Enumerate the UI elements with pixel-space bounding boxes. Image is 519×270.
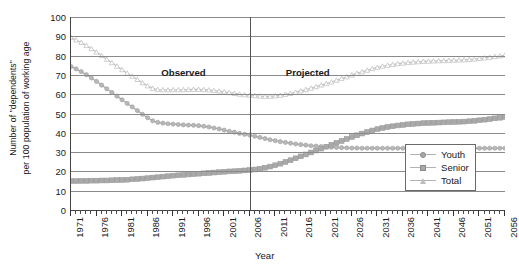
- x-tick-major: [96, 210, 97, 216]
- x-tick-minor: [208, 210, 209, 214]
- y-axis-title: Number of "dependents" per 100 populatio…: [0, 0, 34, 215]
- x-tick-minor: [397, 210, 398, 214]
- y-tick-label: 0: [61, 206, 66, 215]
- x-tick-minor: [213, 210, 214, 214]
- x-tick-minor: [320, 210, 321, 214]
- x-tick-minor: [484, 210, 485, 214]
- x-tick-label: 1976: [100, 217, 110, 238]
- x-tick-minor: [443, 210, 444, 214]
- legend-item-total[interactable]: Total: [410, 174, 469, 187]
- x-tick-minor: [407, 210, 408, 214]
- x-tick-minor: [136, 210, 137, 214]
- x-tick-minor: [489, 210, 490, 214]
- x-tick-label: 2046: [457, 217, 467, 238]
- projected-label: Projected: [286, 67, 330, 78]
- x-tick-label: 2031: [381, 217, 391, 238]
- x-tick-minor: [433, 210, 434, 214]
- x-tick-minor: [193, 210, 194, 214]
- x-tick-minor: [177, 210, 178, 214]
- x-tick-label: 2001: [228, 217, 238, 238]
- x-tick-minor: [187, 210, 188, 214]
- x-tick-label: 2026: [355, 217, 365, 238]
- x-tick-minor: [233, 210, 234, 214]
- legend-item-senior[interactable]: Senior: [410, 161, 469, 174]
- x-tick-major: [121, 210, 122, 216]
- x-tick-major: [427, 210, 428, 216]
- x-tick-minor: [290, 210, 291, 214]
- x-tick-major: [249, 210, 250, 216]
- filled-square-icon: [410, 162, 436, 173]
- x-tick-minor: [371, 210, 372, 214]
- x-tick-major: [351, 210, 352, 216]
- x-tick-minor: [417, 210, 418, 214]
- x-tick-minor: [75, 210, 76, 214]
- x-tick-minor: [157, 210, 158, 214]
- x-tick-major: [300, 210, 301, 216]
- x-tick-minor: [111, 210, 112, 214]
- x-tick-minor: [494, 210, 495, 214]
- x-tick-minor: [80, 210, 81, 214]
- y-tick-label: 30: [56, 148, 66, 157]
- x-tick-label: 2041: [432, 217, 442, 238]
- x-tick-label: 2016: [304, 217, 314, 238]
- x-tick-minor: [264, 210, 265, 214]
- x-tick-minor: [259, 210, 260, 214]
- x-tick-minor: [182, 210, 183, 214]
- x-tick-major: [402, 210, 403, 216]
- x-tick-minor: [254, 210, 255, 214]
- open-triangle-icon: [410, 175, 436, 186]
- x-tick-minor: [116, 210, 117, 214]
- observed-projected-divider: [250, 17, 251, 210]
- x-tick-minor: [295, 210, 296, 214]
- y-tick-label: 70: [56, 70, 66, 79]
- diamond-dot-icon: [410, 149, 436, 160]
- x-tick-major: [325, 210, 326, 216]
- x-tick-minor: [458, 210, 459, 214]
- x-tick-minor: [473, 210, 474, 214]
- x-tick-minor: [499, 210, 500, 214]
- legend-item-youth[interactable]: Youth: [410, 148, 469, 161]
- x-tick-major: [172, 210, 173, 216]
- x-tick-major: [274, 210, 275, 216]
- y-tick-label: 100: [50, 13, 66, 22]
- x-tick-label: 2011: [279, 217, 289, 237]
- x-axis-title: Year: [255, 250, 274, 261]
- x-tick-minor: [412, 210, 413, 214]
- y-tick-label: 50: [56, 109, 66, 118]
- x-tick-label: 1971: [75, 217, 85, 238]
- y-tick-label: 10: [56, 186, 66, 195]
- observed-label: Observed: [161, 67, 205, 78]
- x-tick-minor: [269, 210, 270, 214]
- x-tick-minor: [131, 210, 132, 214]
- x-tick-minor: [244, 210, 245, 214]
- y-axis-title-line2: per 100 population of working age: [21, 41, 31, 174]
- plot-area: Observed Projected YouthSeniorTotal: [70, 17, 505, 211]
- x-axis-tick-labels: 1971197619811986199119962001200620112016…: [0, 217, 516, 251]
- x-tick-minor: [203, 210, 204, 214]
- x-tick-minor: [336, 210, 337, 214]
- y-axis-tick-labels: 0102030405060708090100: [36, 0, 66, 215]
- y-tick-label: 40: [56, 128, 66, 137]
- x-tick-minor: [141, 210, 142, 214]
- gridline: [71, 17, 505, 18]
- gridline: [71, 114, 505, 115]
- x-tick-minor: [463, 210, 464, 214]
- x-tick-major: [70, 210, 71, 216]
- gridline: [71, 56, 505, 57]
- x-tick-minor: [238, 210, 239, 214]
- x-tick-major: [198, 210, 199, 216]
- legend-label: Youth: [441, 149, 465, 160]
- legend-label: Senior: [441, 162, 469, 173]
- gridline: [71, 36, 505, 37]
- x-tick-label: 1981: [126, 217, 136, 238]
- gridline: [71, 94, 505, 95]
- x-tick-minor: [167, 210, 168, 214]
- y-tick-label: 90: [56, 32, 66, 41]
- x-tick-label: 2051: [483, 217, 493, 238]
- x-tick-minor: [279, 210, 280, 214]
- y-tick-label: 60: [56, 90, 66, 99]
- x-tick-minor: [387, 210, 388, 214]
- x-tick-minor: [392, 210, 393, 214]
- x-tick-major: [453, 210, 454, 216]
